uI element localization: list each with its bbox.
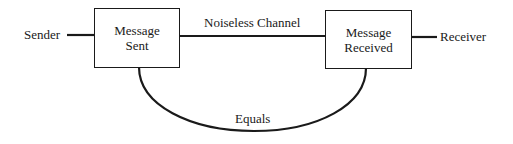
equals-label: Equals xyxy=(235,112,270,126)
sender-label: Sender xyxy=(24,28,60,42)
message-sent-line1: Message xyxy=(114,23,160,38)
message-received-box: Message Received xyxy=(325,10,412,69)
message-sent-line2: Sent xyxy=(114,38,160,53)
channel-label: Noiseless Channel xyxy=(204,16,300,30)
message-received-line1: Message xyxy=(344,25,392,40)
receiver-label: Receiver xyxy=(440,30,486,44)
message-received-line2: Received xyxy=(344,40,392,55)
message-sent-box: Message Sent xyxy=(94,8,180,68)
